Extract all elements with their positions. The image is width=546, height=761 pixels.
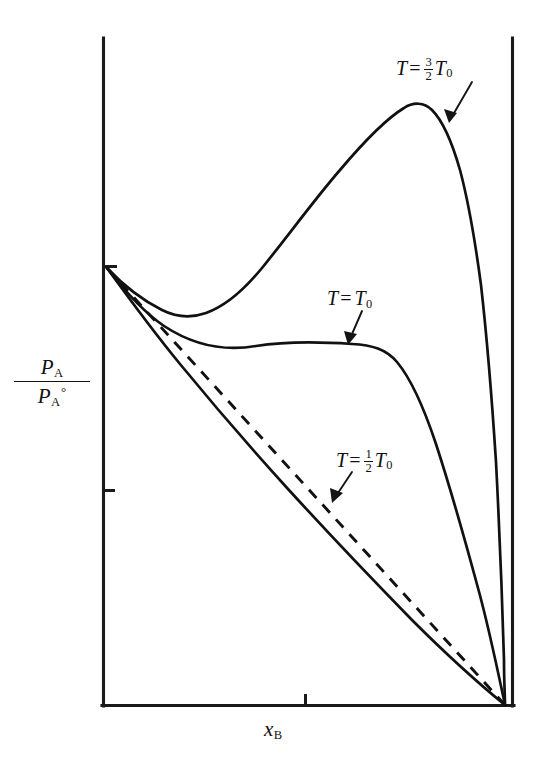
x-axis-label: xB	[264, 719, 282, 741]
curve-label-mid-rhs: T	[354, 287, 365, 309]
curve-label-mid-subscript: 0	[366, 297, 372, 311]
curve-label-mid-lhs: T	[327, 287, 338, 309]
curve-label-half-T0: T=12T0	[336, 448, 393, 475]
vapor-pressure-figure: PA PA° xB T=32T0 T=T0 T=12T0	[0, 0, 546, 761]
curve-label-hot-fraction: 32	[424, 56, 432, 83]
curve-label-cold-subscript: 0	[386, 458, 392, 472]
curve-label-T0: T=T0	[327, 288, 372, 310]
arrowhead-cold	[330, 488, 343, 503]
curve-label-three-halves-T0: T=32T0	[396, 56, 453, 83]
curve-label-mid-equals: =	[340, 287, 351, 309]
curve-label-cold-lhs: T	[336, 449, 347, 471]
curve-three-halves-T0	[107, 104, 505, 705]
y-axis-label-numerator: PA	[14, 356, 90, 381]
y-axis-label: PA PA°	[14, 356, 90, 410]
curve-label-cold-rhs: T	[375, 449, 386, 471]
curve-label-hot-equals: =	[409, 57, 420, 79]
y-axis-label-denominator: PA°	[14, 381, 90, 410]
curve-label-hot-lhs: T	[396, 57, 407, 79]
curve-label-cold-equals: =	[349, 449, 360, 471]
curve-label-hot-rhs: T	[435, 57, 446, 79]
curve-label-hot-subscript: 0	[446, 66, 452, 80]
tick-marks	[104, 267, 306, 706]
curve-label-cold-fraction: 12	[364, 448, 372, 475]
axes-frame	[102, 38, 514, 706]
curve-raoult-ideal-dashed	[107, 268, 505, 705]
